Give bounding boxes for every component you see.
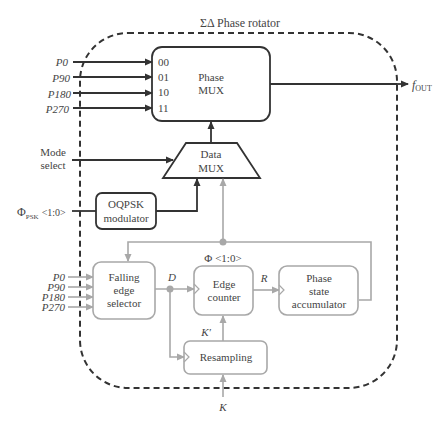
port-11: 11 [158, 102, 169, 114]
bottom-phase-inputs: P0 P90 P180 P270 [41, 271, 93, 313]
r-signal: R [253, 272, 279, 290]
phase-mux-label-1: Phase [198, 71, 224, 83]
phi-bus-label: Φ <1:0> [204, 252, 241, 264]
edge-counter-block: Φ <1:0> Edge counter [194, 252, 253, 315]
input-p90-label: P90 [51, 72, 70, 84]
bus-junction-dot [220, 239, 227, 246]
mode-select-label-1: Mode [40, 146, 66, 158]
oqpsk-label-2: modulator [103, 212, 149, 224]
phi-psk-label: ΦPSK<1:0> [17, 205, 66, 221]
phase-state-label-2: state [309, 285, 329, 297]
falling-edge-label-2: edge [114, 284, 135, 296]
falling-edge-selector-block: Falling edge selector [93, 262, 155, 319]
d-label: D [167, 271, 176, 283]
mode-select-label-2: select [40, 159, 65, 171]
input-p0-label: P0 [55, 56, 69, 68]
edge-counter-label-1: Edge [213, 278, 236, 290]
input-p180-label: P180 [47, 88, 72, 100]
port-10: 10 [158, 86, 170, 98]
phase-state-label-3: accumulator [292, 298, 347, 310]
k-input: K [218, 375, 227, 413]
fout-label: fOUT [412, 78, 432, 93]
edge-counter-label-2: counter [208, 291, 241, 303]
output-fout: fOUT [270, 78, 432, 93]
phi-psk-input: ΦPSK<1:0> [17, 205, 96, 221]
diagram-title: ΣΔ Phase rotator [200, 16, 280, 30]
phase-mux-label-2: MUX [198, 84, 224, 96]
falling-edge-label-3: selector [107, 297, 142, 309]
phase-state-label-1: Phase [306, 272, 332, 284]
oqpsk-to-datamux-arrow [156, 179, 197, 211]
r-label: R [260, 272, 268, 284]
data-mux-label-1: Data [201, 148, 222, 160]
phase-mux-block: Phase MUX 00 01 10 11 [152, 47, 270, 121]
phase-state-accumulator-block: Phase state accumulator [279, 266, 358, 315]
input-p270-label: P270 [45, 103, 70, 115]
falling-edge-label-1: Falling [108, 271, 140, 283]
oqpsk-modulator-block: OQPSK modulator [96, 193, 156, 229]
port-00: 00 [158, 56, 170, 68]
data-mux-label-2: MUX [198, 162, 224, 174]
k-prime-label: K′ [200, 326, 211, 338]
bottom-p270-label: P270 [41, 301, 66, 313]
phase-rotator-diagram: ΣΔ Phase rotator Phase MUX 00 01 10 11 P… [0, 0, 441, 426]
oqpsk-label-1: OQPSK [108, 198, 144, 210]
k-label: K [218, 401, 227, 413]
mode-select-input: Mode select [40, 146, 173, 171]
data-mux-block: Data MUX [163, 143, 260, 178]
resampling-label: Resampling [200, 351, 253, 363]
top-phase-inputs: P0 P90 P180 P270 [45, 56, 152, 115]
resampling-block: Resampling [184, 341, 267, 374]
port-01: 01 [158, 71, 169, 83]
k-prime-signal: K′ [200, 316, 223, 341]
